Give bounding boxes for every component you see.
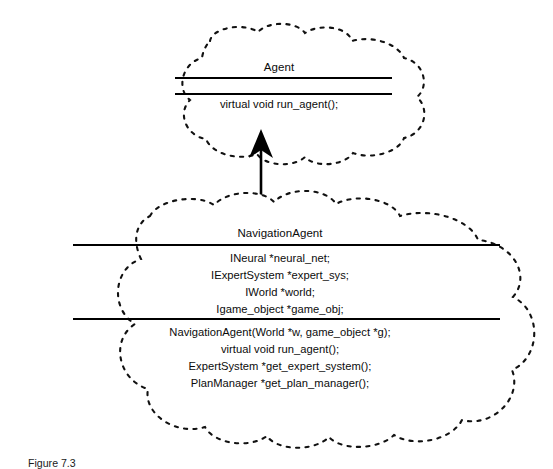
navigationagent-method: ExpertSystem *get_expert_system(); xyxy=(15,361,545,372)
navigationagent-attribute: IExpertSystem *expert_sys; xyxy=(15,270,545,281)
agent-method: virtual void run_agent(); xyxy=(138,99,420,110)
navigationagent-attribute: INeural *neural_net; xyxy=(15,253,545,264)
agent-class-name: Agent xyxy=(138,62,420,74)
navigationagent-method: NavigationAgent(World *w, game_object *g… xyxy=(15,327,545,338)
navigationagent-method: PlanManager *get_plan_manager(); xyxy=(15,378,545,389)
navigationagent-class-name: NavigationAgent xyxy=(15,228,545,240)
navigationagent-method: virtual void run_agent(); xyxy=(15,344,545,355)
figure-caption: Figure 7.3 xyxy=(28,458,528,469)
navigationagent-attribute: Igame_object *game_obj; xyxy=(15,304,545,315)
navigationagent-attribute: IWorld *world; xyxy=(15,287,545,298)
